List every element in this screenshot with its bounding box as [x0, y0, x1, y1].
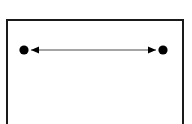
figure-background — [0, 0, 192, 124]
figure-canvas — [0, 0, 192, 124]
right-endpoint-dot — [158, 45, 167, 54]
left-endpoint-dot — [19, 45, 28, 54]
figure-root — [0, 0, 192, 124]
